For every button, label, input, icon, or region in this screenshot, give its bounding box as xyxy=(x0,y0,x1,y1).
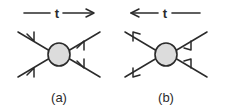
caption-b: (b) xyxy=(158,90,174,105)
leg-b-upper-right xyxy=(175,32,207,51)
leg-b-lower-right xyxy=(175,58,207,77)
leg-b-upper-left xyxy=(125,32,157,51)
interaction-vertex-blob-a xyxy=(48,43,70,66)
time-axis-a: t xyxy=(24,6,94,21)
time-axis-a-label: t xyxy=(55,6,60,21)
leg-b-upper-left-line xyxy=(125,32,157,51)
panel-a: t xyxy=(18,6,100,105)
leg-a-upper-left xyxy=(18,32,50,51)
time-axis-b-label: t xyxy=(163,6,168,21)
time-axis-b: t xyxy=(131,6,200,21)
leg-b-lower-left xyxy=(125,58,157,77)
figure-container: t xyxy=(0,0,225,109)
leg-a-lower-left xyxy=(18,58,50,77)
interaction-vertex-blob-b xyxy=(155,43,177,66)
leg-a-lower-right xyxy=(68,58,100,77)
leg-a-upper-right xyxy=(68,32,100,51)
feynman-diagram-figure: t xyxy=(0,0,225,109)
leg-b-lower-left-line xyxy=(125,58,157,77)
caption-a: (a) xyxy=(51,90,67,105)
panel-b: t xyxy=(125,6,207,105)
